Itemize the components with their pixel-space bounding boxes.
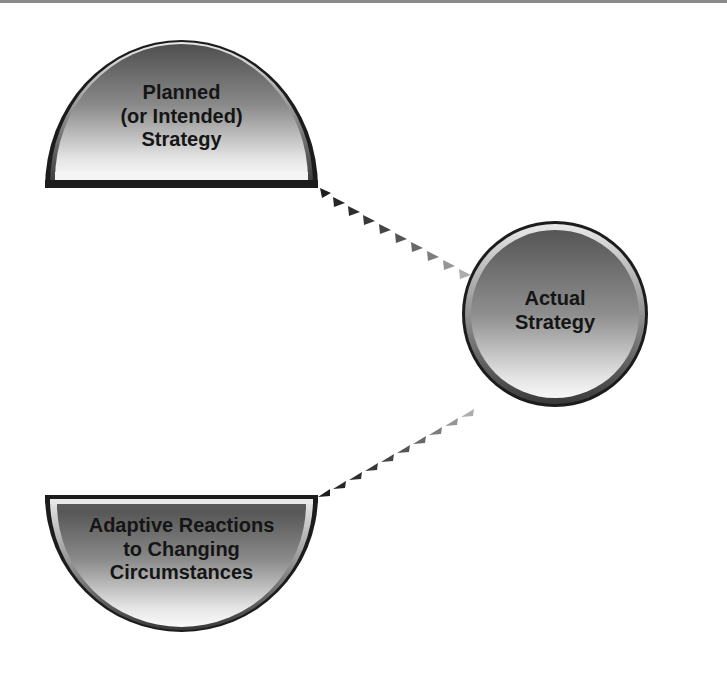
arrow-adaptive-to-actual	[318, 409, 474, 497]
adaptive-line-3: Circumstances	[45, 561, 318, 585]
arrow-planned-to-actual	[320, 188, 471, 279]
planned-line-1: Planned	[45, 81, 318, 105]
actual-line-2: Strategy	[462, 311, 648, 335]
planned-line-3: Strategy	[45, 128, 318, 152]
actual-strategy-label: Actual Strategy	[462, 287, 648, 334]
actual-line-1: Actual	[462, 287, 648, 311]
adaptive-reactions-label: Adaptive Reactions to Changing Circumsta…	[45, 514, 318, 585]
adaptive-line-1: Adaptive Reactions	[45, 514, 318, 538]
adaptive-line-2: to Changing	[45, 538, 318, 562]
planned-line-2: (or Intended)	[45, 105, 318, 129]
planned-strategy-label: Planned (or Intended) Strategy	[45, 81, 318, 152]
